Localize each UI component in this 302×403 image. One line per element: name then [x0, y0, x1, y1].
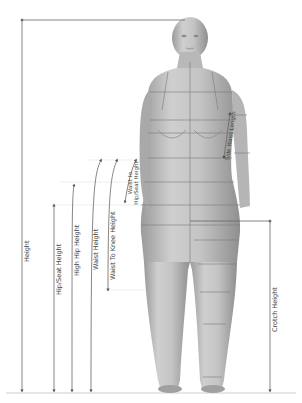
waist-to-knee-height-label: Waist To Knee Height: [110, 211, 117, 280]
high-hip-height-line: [72, 185, 74, 391]
height-label: Height: [24, 241, 31, 263]
waist-to-hip-seat-height-label: Waist to Hip/Seat Height: [128, 161, 139, 205]
hip-seat-height-label: Hip/Seat Height: [56, 244, 63, 295]
mannequin-figure: [140, 17, 250, 393]
waist-height-label: Waist Height: [93, 229, 100, 270]
waist-height-line: [91, 160, 101, 391]
high-hip-height-label: High Hip Height: [74, 225, 81, 276]
crotch-height-label: Crotch Height: [272, 287, 279, 332]
body-measurement-diagram: Height Hip/Seat Height High Hip Height W…: [0, 0, 302, 403]
